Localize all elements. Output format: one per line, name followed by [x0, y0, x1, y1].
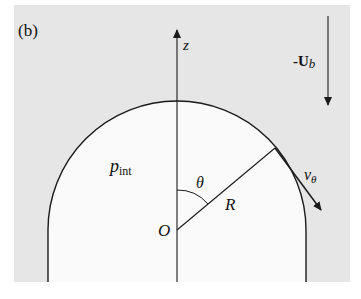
- flow-label-main: -U: [293, 53, 309, 69]
- bubble-diagram: (b) z -Ub pint θ R O vθ: [0, 0, 361, 299]
- flow-label-sub: b: [309, 56, 316, 71]
- pressure-label-main: p: [108, 156, 119, 176]
- panel-label: (b): [18, 21, 38, 40]
- velocity-label-sub: θ: [311, 173, 317, 185]
- flow-label: -Ub: [293, 53, 316, 71]
- angle-label: θ: [196, 174, 204, 191]
- origin-label: O: [158, 221, 170, 240]
- pressure-label-sub: int: [119, 164, 132, 178]
- radius-label: R: [224, 195, 236, 214]
- z-axis-label: z: [182, 37, 189, 53]
